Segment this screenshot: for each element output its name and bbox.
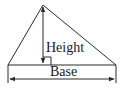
height-label: Height	[46, 40, 84, 55]
triangle-diagram: Height Base	[0, 0, 123, 90]
base-label: Base	[50, 64, 77, 79]
triangle-shape	[8, 5, 116, 65]
